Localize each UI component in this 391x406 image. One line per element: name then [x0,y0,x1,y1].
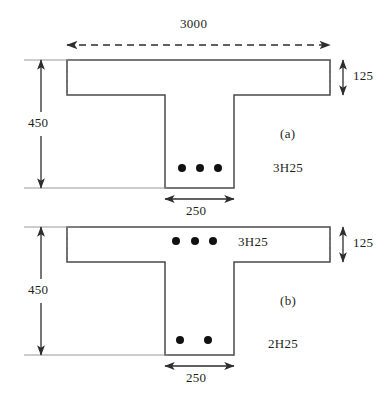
rebar-dot [196,164,204,172]
rebar-dot [176,336,184,344]
label-flange-depth-b: 125 [353,235,373,251]
label-flange-rebar-b: 3H25 [238,234,268,250]
label-flange-depth-a: 125 [353,68,373,84]
label-depth-b: 450 [28,282,48,298]
label-section-tag-b: (b) [280,293,296,309]
rebar-dot [178,164,186,172]
label-depth-a: 450 [28,115,48,131]
label-rebar-a: 3H25 [273,160,303,176]
rebar-dot [191,237,199,245]
label-web-rebar-b: 2H25 [268,336,298,352]
rebar-dot [209,237,217,245]
rebar-dot [214,164,222,172]
label-flange-width-a: 3000 [180,16,207,32]
rebar-dot [204,336,212,344]
label-web-width-a: 250 [186,203,206,219]
figure-canvas: 3000 125 450 (a) 3H25 250 3H25 125 450 (… [0,0,391,406]
rebar-dot [172,237,180,245]
label-web-width-b: 250 [186,370,206,386]
label-section-tag-a: (a) [280,126,295,142]
